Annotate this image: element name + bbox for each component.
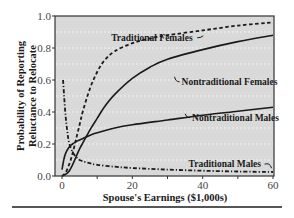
series-label-traditional-males: Traditional Males — [189, 159, 262, 169]
y-tick-label: 0.8 — [37, 42, 51, 54]
y-tick-label: 1.0 — [37, 10, 51, 22]
y-axis-title-line-2: Reluctance to Relocate — [27, 45, 38, 147]
x-tick-label: 40 — [197, 179, 209, 191]
y-tick-label: 0.0 — [37, 170, 51, 182]
line-chart: Traditional FemalesNontraditional Female… — [0, 0, 294, 218]
y-axis-title-line-1: Probability of Reporting — [15, 40, 26, 151]
series-label-traditional-females: Traditional Females — [111, 33, 193, 43]
series-label-nontraditional-females: Nontraditional Females — [182, 77, 278, 87]
y-tick-label: 0.2 — [37, 138, 51, 150]
bottom-rule — [12, 206, 282, 208]
x-tick-label: 0 — [59, 179, 65, 191]
y-tick-label: 0.6 — [37, 74, 51, 86]
y-tick-label: 0.4 — [37, 106, 51, 118]
x-tick-label: 60 — [268, 179, 280, 191]
x-axis-title: Spouse's Earnings ($1,000s) — [103, 192, 228, 204]
y-axis-title: Probability of Reporting Reluctance to R… — [15, 40, 38, 151]
x-tick-label: 20 — [127, 179, 139, 191]
series-label-nontraditional-males: Nontraditional Males — [192, 113, 279, 123]
